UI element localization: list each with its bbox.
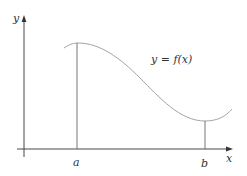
x-axis-label: x [226,152,233,165]
function-graph-diagram: y x a b y = f(x) [0,0,247,176]
y-axis-arrow-icon [22,15,27,22]
curve-label: y = f(x) [150,53,192,66]
x-axis [17,147,233,152]
function-curve [64,43,232,121]
y-axis [22,15,27,157]
marker-a-label: a [73,156,80,169]
x-axis-arrow-icon [226,147,233,152]
y-axis-label: y [12,12,20,25]
marker-b-label: b [201,157,208,170]
